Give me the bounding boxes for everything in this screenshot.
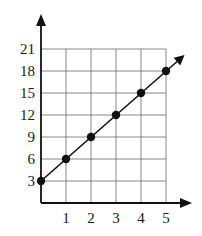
data-point	[112, 111, 120, 119]
y-axis-arrow-icon	[36, 14, 46, 26]
y-tick-label: 18	[20, 63, 35, 79]
y-tick-label: 12	[20, 107, 35, 123]
y-tick-label: 3	[28, 173, 36, 189]
y-tick-labels: 36912151821	[20, 41, 36, 189]
y-tick-label: 21	[20, 41, 35, 57]
line-chart: 36912151821 12345	[0, 0, 202, 236]
x-tick-label: 1	[62, 210, 70, 226]
x-tick-label: 4	[137, 210, 145, 226]
x-tick-labels: 12345	[62, 210, 170, 226]
data-point	[87, 133, 95, 141]
x-tick-label: 2	[87, 210, 95, 226]
data-point	[137, 89, 145, 97]
x-tick-label: 5	[162, 210, 170, 226]
y-tick-label: 6	[28, 151, 36, 167]
data-point	[162, 67, 170, 75]
series-line	[41, 59, 180, 181]
y-tick-label: 9	[28, 129, 36, 145]
y-tick-label: 15	[20, 85, 35, 101]
x-axis-arrow-icon	[180, 198, 192, 208]
axes	[36, 14, 192, 208]
data-point	[62, 155, 70, 163]
data-point	[37, 177, 45, 185]
x-tick-label: 3	[112, 210, 120, 226]
data-series	[37, 55, 185, 185]
